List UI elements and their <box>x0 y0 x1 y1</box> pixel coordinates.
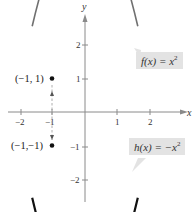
f-function-label: f(x) = x2 <box>136 52 183 69</box>
x-axis-label: x <box>186 107 192 118</box>
h-label-exponent: 2 <box>177 140 181 148</box>
point-neg1-1 <box>50 76 55 81</box>
y-axis-arrow-icon <box>83 14 88 22</box>
h-label-pointer <box>132 158 146 172</box>
y-tick-label: 1 <box>76 74 81 84</box>
y-axis <box>82 14 88 202</box>
y-tick-label: −2 <box>70 175 80 185</box>
arrow-down-icon <box>50 135 54 140</box>
y-tick-label: −1 <box>70 142 80 152</box>
graph-canvas: x y −2 −1 1 2 2 1 −1 −2 (−1, 1) (−1,−1) <box>0 0 194 212</box>
x-tick-label: −1 <box>45 117 55 127</box>
y-axis-label: y <box>81 1 87 12</box>
point-neg1-neg1 <box>50 143 55 148</box>
f-label-text: f(x) = x <box>141 55 174 67</box>
h-function-label: h(x) = −x2 <box>129 138 185 155</box>
y-tick-label: 2 <box>76 40 81 50</box>
point-label-lower: (−1,−1) <box>11 140 43 152</box>
reflection-graph: x y −2 −1 1 2 2 1 −1 −2 (−1, 1) (−1,−1) <box>0 0 194 212</box>
f-label-exponent: 2 <box>174 54 178 62</box>
x-tick-label: 1 <box>115 117 120 127</box>
arrow-up-icon <box>50 91 54 96</box>
x-axis <box>8 109 188 115</box>
x-tick-label: −2 <box>15 117 25 127</box>
point-label-upper: (−1, 1) <box>15 73 44 85</box>
x-tick-label: 2 <box>148 117 153 127</box>
h-label-text: h(x) = −x <box>134 141 177 153</box>
